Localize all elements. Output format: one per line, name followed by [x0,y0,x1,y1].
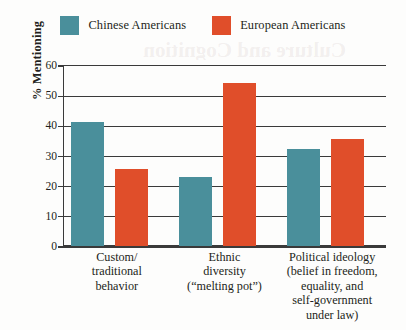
y-axis-tick-label: 10 [31,209,57,222]
category-label-line: (belief in freedom, [264,264,400,278]
category-label-line: self-government [264,293,400,307]
category-label-line: under law) [264,308,400,322]
bar [179,177,212,246]
page-bleed-through-artifact: Culture and Cognition [96,38,346,60]
y-axis-tick-label: 20 [31,179,57,192]
y-axis-tick-labels: 0102030405060 [29,65,57,246]
bar [115,169,148,246]
legend-label: European Americans [240,18,345,33]
legend-entry: European Americans [212,16,345,35]
y-axis-tick-label: 50 [31,89,57,102]
category-label-line: equality, and [264,279,400,293]
y-axis-tick-mark [58,246,64,247]
bar [71,122,104,246]
bar-series-container [63,65,386,246]
bar [287,149,320,246]
category-label-line: Political ideology [264,250,400,264]
legend-color-swatch [212,16,231,35]
y-axis-tick-label: 40 [31,119,57,132]
x-axis-category-labels: Custom/traditionalbehaviorEthnicdiversit… [63,250,386,328]
gridline [64,246,386,247]
y-axis-tick-label: 30 [31,149,57,162]
bar [223,83,256,246]
y-axis-tick-label: 60 [31,59,57,72]
legend-color-swatch [60,16,79,35]
legend-label: Chinese Americans [88,18,186,33]
x-axis-category-label: Political ideology(belief in freedom,equ… [264,250,400,322]
bar-chart-figure: Culture and Cognition Chinese AmericansE… [0,0,406,330]
bar [331,139,364,246]
chart-legend: Chinese AmericansEuropean Americans [0,16,406,35]
legend-entry: Chinese Americans [60,16,186,35]
